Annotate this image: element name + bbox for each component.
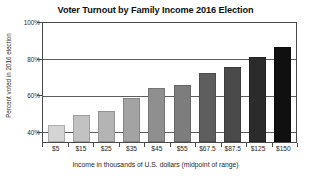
- x-tick-mark: [297, 143, 298, 147]
- x-tick-label: $35: [119, 145, 144, 159]
- bar-slot: [169, 23, 194, 142]
- y-axis-ticks: 100% 80% 60% 40% Percent voted in 2016 e…: [0, 0, 40, 181]
- bar[interactable]: [148, 88, 165, 142]
- bar[interactable]: [48, 125, 65, 142]
- bar-slot: [94, 23, 119, 142]
- bar-slot: [119, 23, 144, 142]
- x-axis-ticks: $5 $15 $25 $35 $45 $55 $67.5 $87.5 $125 …: [42, 145, 297, 159]
- bar[interactable]: [73, 115, 90, 142]
- bar-slot: [69, 23, 94, 142]
- bar[interactable]: [174, 85, 191, 142]
- bar-slot: [44, 23, 69, 142]
- bar-slot: [220, 23, 245, 142]
- chart-title: Voter Turnout by Family Income 2016 Elec…: [0, 5, 311, 15]
- bar-slot: [144, 23, 169, 142]
- bar-slot: [245, 23, 270, 142]
- bar-chart: Voter Turnout by Family Income 2016 Elec…: [0, 0, 311, 181]
- x-tick-label: $150: [271, 145, 296, 159]
- bar[interactable]: [199, 73, 216, 142]
- bar[interactable]: [249, 57, 266, 142]
- bar-slot: [270, 23, 295, 142]
- x-axis-title: Income in thousands of U.S. dollars (mid…: [0, 161, 311, 168]
- x-tick-label: $15: [68, 145, 93, 159]
- x-tick-label: $67.5: [195, 145, 220, 159]
- bar[interactable]: [274, 47, 291, 142]
- x-tick-label: $87.5: [220, 145, 245, 159]
- bar[interactable]: [224, 67, 241, 142]
- bar-slot: [195, 23, 220, 142]
- bar[interactable]: [98, 111, 115, 142]
- bar[interactable]: [123, 98, 140, 142]
- y-axis-title: Percent voted in 2016 election: [5, 16, 12, 136]
- x-tick-label: $5: [43, 145, 68, 159]
- x-tick-label: $25: [94, 145, 119, 159]
- x-tick-label: $55: [169, 145, 194, 159]
- x-tick-label: $45: [144, 145, 169, 159]
- x-tick-label: $125: [245, 145, 270, 159]
- bars-layer: [43, 23, 296, 142]
- plot-area: [42, 22, 297, 143]
